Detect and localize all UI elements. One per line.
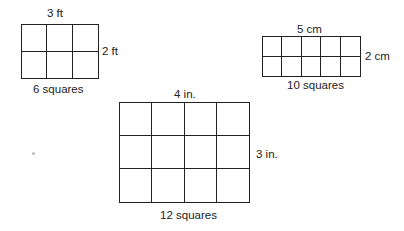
- unit-square: [185, 136, 217, 169]
- unit-square: [217, 103, 249, 136]
- count-label-cm: 10 squares: [287, 79, 344, 91]
- unit-square: [47, 25, 72, 52]
- height-label-inches: 3 in.: [256, 148, 278, 160]
- unit-square: [185, 169, 217, 202]
- unit-square: [152, 169, 184, 202]
- unit-square: [217, 169, 249, 202]
- height-label-cm: 2 cm: [365, 50, 390, 62]
- unit-square: [321, 37, 340, 57]
- unit-square: [152, 136, 184, 169]
- grid-rectangle-inches: [119, 102, 250, 203]
- unit-square: [120, 169, 152, 202]
- width-label-cm: 5 cm: [297, 23, 322, 35]
- unit-square: [73, 25, 98, 52]
- unit-square: [302, 57, 321, 77]
- count-label-feet: 6 squares: [33, 83, 84, 95]
- unit-square: [120, 136, 152, 169]
- unit-square: [152, 103, 184, 136]
- unit-square: [263, 57, 282, 77]
- stray-mark: [32, 152, 35, 155]
- unit-square: [341, 37, 360, 57]
- unit-square: [120, 103, 152, 136]
- unit-square: [217, 136, 249, 169]
- grid-rectangle-cm: [262, 36, 361, 77]
- count-label-inches: 12 squares: [160, 209, 217, 221]
- unit-square: [282, 57, 301, 77]
- height-label-feet: 2 ft: [102, 45, 118, 57]
- unit-square: [22, 52, 47, 79]
- grid-rectangle-feet: [21, 24, 99, 79]
- unit-square: [341, 57, 360, 77]
- unit-square: [263, 37, 282, 57]
- unit-square: [73, 52, 98, 79]
- unit-square: [185, 103, 217, 136]
- unit-square: [22, 25, 47, 52]
- unit-square: [321, 57, 340, 77]
- unit-square: [282, 37, 301, 57]
- unit-square: [47, 52, 72, 79]
- width-label-feet: 3 ft: [47, 7, 63, 19]
- width-label-inches: 4 in.: [174, 88, 196, 100]
- unit-square: [302, 37, 321, 57]
